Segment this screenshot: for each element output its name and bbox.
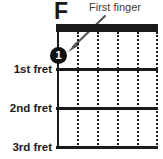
first-finger-annotation-label: First finger <box>89 1 141 14</box>
string-6 <box>156 32 158 149</box>
fret-label-3rd: 3rd fret <box>12 141 52 154</box>
nut-bar <box>56 24 158 32</box>
fret-line-2 <box>56 107 158 110</box>
fret-label-2nd: 2nd fret <box>10 102 52 115</box>
chord-name-label: F <box>54 0 68 23</box>
fret-label-1st: 1st fret <box>14 63 52 76</box>
fretboard: 1 <box>56 24 158 149</box>
string-5 <box>137 32 139 149</box>
string-4 <box>117 32 119 149</box>
fret-line-1 <box>56 68 158 71</box>
finger-marker-1: 1 <box>50 47 67 64</box>
string-3 <box>97 32 99 149</box>
string-2 <box>77 32 79 149</box>
chord-diagram-canvas: F First finger 1 1st fret 2nd fret 3rd f… <box>0 0 163 159</box>
fret-line-3 <box>56 146 158 149</box>
